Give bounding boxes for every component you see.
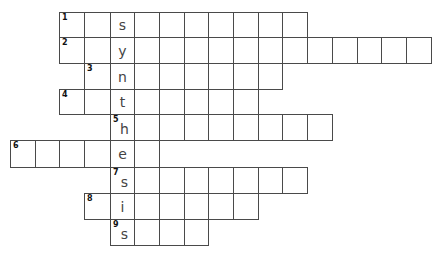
crossword-cell[interactable] <box>134 114 160 141</box>
crossword-cell[interactable] <box>282 167 308 194</box>
crossword-cell[interactable] <box>233 193 259 220</box>
crossword-cell[interactable] <box>159 89 185 115</box>
crossword-cell[interactable] <box>184 12 209 38</box>
crossword-cell[interactable] <box>59 140 85 168</box>
crossword-cell[interactable] <box>307 37 333 64</box>
clue-number: 4 <box>62 91 68 99</box>
crossword-cell[interactable] <box>84 140 111 168</box>
crossword-cell[interactable] <box>208 63 234 90</box>
crossword-cell[interactable] <box>307 114 333 141</box>
given-letter: i <box>111 194 134 219</box>
crossword-cell[interactable] <box>134 219 160 246</box>
crossword-cell[interactable] <box>159 114 185 141</box>
crossword-cell[interactable]: y <box>110 37 135 64</box>
crossword-cell[interactable] <box>134 167 160 194</box>
crossword-cell[interactable] <box>258 63 283 90</box>
crossword-cell[interactable]: i <box>110 193 135 220</box>
crossword-cell[interactable]: 4 <box>59 89 85 115</box>
crossword-cell[interactable] <box>406 37 432 64</box>
crossword-cell[interactable] <box>208 89 234 115</box>
crossword-cell[interactable] <box>282 37 308 64</box>
crossword-cell[interactable]: s <box>110 12 135 38</box>
crossword-cell[interactable] <box>134 12 160 38</box>
crossword-cell[interactable]: e <box>110 140 135 168</box>
crossword-cell[interactable]: 9s <box>110 219 135 246</box>
crossword-cell[interactable]: 6 <box>10 140 36 168</box>
crossword-cell[interactable] <box>332 37 358 64</box>
crossword-cell[interactable] <box>233 89 259 115</box>
crossword-cell[interactable] <box>282 114 308 141</box>
crossword-cell[interactable]: n <box>110 63 135 90</box>
crossword-cell[interactable] <box>84 89 111 115</box>
crossword-cell[interactable] <box>258 167 283 194</box>
crossword-cell[interactable] <box>159 63 185 90</box>
given-letter: h <box>111 115 134 140</box>
crossword-cell[interactable] <box>184 167 209 194</box>
crossword-cell[interactable] <box>134 89 160 115</box>
given-letter: n <box>111 64 134 89</box>
crossword-cell[interactable] <box>381 37 407 64</box>
crossword-cell[interactable] <box>159 12 185 38</box>
crossword-cell[interactable] <box>134 193 160 220</box>
crossword-cell[interactable] <box>208 114 234 141</box>
given-letter: y <box>111 38 134 63</box>
crossword-cell[interactable] <box>159 193 185 220</box>
crossword-cell[interactable] <box>208 193 234 220</box>
crossword-cell[interactable]: 5h <box>110 114 135 141</box>
given-letter: t <box>111 90 134 114</box>
crossword-cell[interactable] <box>282 12 308 38</box>
crossword-cell[interactable]: 2 <box>59 37 85 64</box>
crossword-cell[interactable] <box>233 63 259 90</box>
crossword-cell[interactable] <box>208 12 234 38</box>
crossword-cell[interactable]: 7s <box>110 167 135 194</box>
crossword-cell[interactable] <box>184 193 209 220</box>
crossword-cell[interactable] <box>184 114 209 141</box>
crossword-cell[interactable] <box>258 12 283 38</box>
given-letter: s <box>111 220 134 245</box>
crossword-cell[interactable] <box>84 37 111 64</box>
crossword-cell[interactable] <box>233 12 259 38</box>
crossword-cell[interactable] <box>184 37 209 64</box>
clue-number: 6 <box>13 142 19 150</box>
crossword-cell[interactable] <box>258 37 283 64</box>
crossword-cell[interactable] <box>134 63 160 90</box>
crossword-cell[interactable]: t <box>110 89 135 115</box>
crossword-cell[interactable] <box>84 12 111 38</box>
crossword-cell[interactable] <box>134 140 160 168</box>
crossword-cell[interactable] <box>184 89 209 115</box>
crossword-cell[interactable] <box>134 37 160 64</box>
given-letter: s <box>111 13 134 37</box>
crossword-cell[interactable] <box>357 37 382 64</box>
crossword-cell[interactable] <box>233 37 259 64</box>
crossword-cell[interactable] <box>159 167 185 194</box>
given-letter: s <box>111 168 134 193</box>
crossword-cell[interactable] <box>159 37 185 64</box>
crossword-cell[interactable] <box>208 167 234 194</box>
crossword-cell[interactable]: 3 <box>84 63 111 90</box>
crossword-cell[interactable] <box>233 167 259 194</box>
crossword-grid: 1s2y3n4t5h6e7s8i9s <box>0 0 438 254</box>
crossword-cell[interactable]: 8 <box>84 193 111 220</box>
clue-number: 8 <box>87 195 93 203</box>
crossword-cell[interactable] <box>184 63 209 90</box>
crossword-cell[interactable] <box>184 219 209 246</box>
clue-number: 3 <box>87 65 93 73</box>
given-letter: e <box>111 141 134 167</box>
crossword-cell[interactable] <box>233 114 259 141</box>
clue-number: 2 <box>62 39 68 47</box>
crossword-cell[interactable] <box>258 114 283 141</box>
crossword-cell[interactable] <box>159 219 185 246</box>
clue-number: 1 <box>62 14 68 22</box>
crossword-cell[interactable]: 1 <box>59 12 85 38</box>
crossword-cell[interactable] <box>208 37 234 64</box>
crossword-cell[interactable] <box>35 140 60 168</box>
